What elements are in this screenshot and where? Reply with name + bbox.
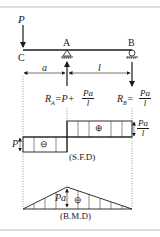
bmd-peak-value: Pa <box>55 193 66 203</box>
bmd-title: (B.M.D) <box>60 212 91 221</box>
point-label-b: B <box>128 38 135 48</box>
sfd-negative-sign-icon: ⊖ <box>40 140 48 149</box>
reaction-b-fraction: Pa l <box>139 89 151 108</box>
dimension-label-a: a <box>42 63 47 73</box>
reaction-a-fraction: Pa l <box>82 89 94 108</box>
shear-force-diagram <box>20 121 134 152</box>
pin-support-icon <box>61 50 73 59</box>
load-label-p: P <box>18 14 25 25</box>
reaction-a-rhs: =P+ <box>55 93 75 104</box>
sfd-title: (S.F.D) <box>69 153 95 162</box>
reaction-b-denominator: l <box>144 99 147 108</box>
dimension-label-l: l <box>98 63 101 73</box>
sfd-left-value: P <box>12 139 18 149</box>
sfd-right-denominator: l <box>142 129 145 138</box>
reaction-b-formula: RB= <box>117 94 134 106</box>
reaction-b-rhs: = <box>127 93 134 104</box>
reaction-a-formula: RA=P+ <box>45 94 74 106</box>
roller-support-icon <box>126 50 138 59</box>
point-label-a: A <box>63 38 70 48</box>
point-label-c: C <box>18 53 25 63</box>
sfd-right-fraction: Pa l <box>137 119 149 138</box>
reaction-a-denominator: l <box>87 99 90 108</box>
sfd-positive-sign-icon: ⊕ <box>95 124 103 133</box>
bmd-sign-icon: ⊖ <box>74 196 82 205</box>
